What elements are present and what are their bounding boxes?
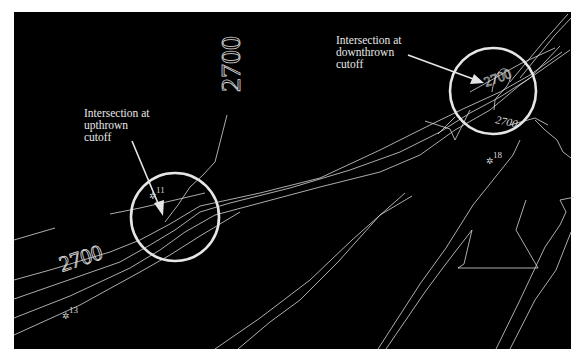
lower-faults [215, 118, 575, 349]
contour-label-top: 2700 [215, 36, 246, 92]
svg-text:13: 13 [69, 305, 79, 315]
contour-label-left: 2700 [56, 239, 106, 276]
contour-map: 2700 2700 2700 2700 ✲ 11 ✲ 13 ✲ 18 [0, 0, 582, 362]
well-13: ✲ 13 [62, 305, 79, 321]
upthrown-highlight-circle [131, 173, 219, 261]
downthrown-arrow [408, 55, 484, 84]
downthrown-annotation: Intersection at downthrown cutoff [336, 34, 401, 70]
downthrown-highlight-circle [450, 48, 536, 134]
fault-band [14, 14, 571, 335]
well-18: ✲ 18 [486, 150, 503, 166]
contour-label-right-inner: 2700 [495, 113, 520, 129]
upthrown-arrow [132, 141, 164, 216]
upthrown-annotation: Intersection at upthrown cutoff [84, 107, 149, 143]
svg-text:18: 18 [493, 150, 503, 160]
contour-label-right-squiggle: 2700 [482, 66, 513, 90]
svg-text:11: 11 [156, 185, 165, 195]
